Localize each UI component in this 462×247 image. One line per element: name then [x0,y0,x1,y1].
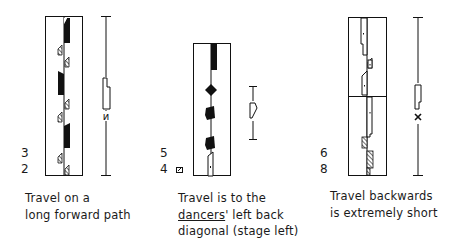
caption-right: Travel backwards is extremely short [330,188,438,221]
stage-left-pin-icon [177,167,183,173]
gesture-symbol-low [58,112,62,122]
measure-number: 2 [21,162,29,176]
backward-symbol-low [362,137,367,148]
diamond-symbol [205,84,217,96]
caption-line: Travel backwards [330,188,438,205]
caption-line: diagonal (stage left) [178,223,298,240]
gesture-symbol-low [58,45,62,55]
caption-fragment: ' left back [225,208,284,222]
measure-number: 5 [160,146,168,160]
staff-left [46,16,83,176]
low-support-symbol [208,152,213,176]
gesture-symbol-low [58,153,62,163]
caption-line: Travel is to the [178,190,298,207]
backward-symbol [367,97,372,137]
support-symbol-forward-high [64,18,70,43]
measure-number: 6 [320,146,328,160]
caption-line: Travel on a [25,190,131,207]
gesture-symbol-low [65,99,69,109]
gesture-symbol-low [65,57,69,67]
measure-number: 4 [160,162,168,176]
staff-middle [194,43,231,176]
support-symbol-forward-high [58,71,64,95]
support-symbol-square [205,106,215,120]
caption-middle: Travel is to the dancers' left back diag… [178,190,298,240]
measure-number: 3 [21,146,29,160]
caption-line: is extremely short [330,205,438,222]
staff-right [348,17,387,176]
path-sign-left: и [100,16,112,176]
gesture-symbol-low [65,165,69,175]
path-sign-middle [249,86,258,140]
caption-left: Travel on a long forward path [25,190,131,223]
backward-symbol-low [367,151,373,168]
measure-number: 8 [320,162,328,176]
backward-symbol [361,18,367,55]
support-symbol-square [205,136,215,150]
support-symbol-black [211,44,217,70]
path-sign-right [413,17,423,176]
caption-line: dancers' left back [178,207,298,224]
backward-symbol [362,71,367,95]
support-symbol-forward-high [64,123,70,148]
caption-line: long forward path [25,207,131,224]
long-distance-sign: и [103,111,110,122]
underlined-word: dancers [178,208,225,222]
